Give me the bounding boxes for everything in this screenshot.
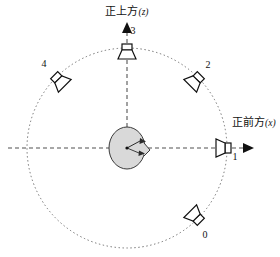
speaker-3[interactable] xyxy=(118,44,136,59)
horizontal-axis-arrowhead xyxy=(243,143,254,153)
vertical-axis-label: 正上方(z) xyxy=(105,4,148,18)
speaker-cone xyxy=(216,139,225,157)
speaker-4[interactable] xyxy=(48,69,71,92)
listener-head xyxy=(109,127,150,169)
speaker-label-1: 1 xyxy=(233,151,238,162)
figure-canvas: 01234 正上方(z) 正前方(x) xyxy=(0,0,280,257)
speaker-array-diagram: 01234 正上方(z) 正前方(x) xyxy=(0,0,280,257)
speaker-label-2: 2 xyxy=(206,59,211,70)
speaker-cone xyxy=(118,50,136,59)
horizontal-axis-label: 正前方(x) xyxy=(232,115,276,129)
speaker-cabinet xyxy=(225,143,231,153)
speaker-1[interactable] xyxy=(216,139,231,157)
nose-shape xyxy=(144,143,150,156)
speaker-label-3: 3 xyxy=(131,25,136,36)
head-center-dot xyxy=(125,146,128,149)
speaker-label-4: 4 xyxy=(42,58,47,69)
speaker-2[interactable] xyxy=(184,69,207,92)
speaker-label-0: 0 xyxy=(203,229,208,240)
speaker-0[interactable] xyxy=(184,205,207,228)
speaker-cabinet xyxy=(122,44,132,50)
